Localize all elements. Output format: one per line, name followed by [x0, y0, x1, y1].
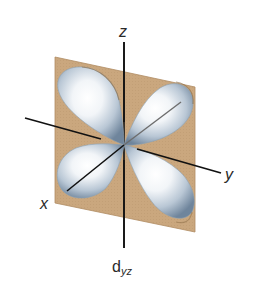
caption-main: d — [112, 258, 121, 275]
y-axis-label: y — [224, 166, 234, 183]
z-axis-label: z — [118, 23, 127, 40]
dyz-orbital-diagram: z y x dyz — [0, 0, 259, 294]
orbital-caption: dyz — [112, 258, 132, 277]
caption-subscript: yz — [120, 265, 133, 277]
x-axis-label: x — [39, 195, 49, 212]
